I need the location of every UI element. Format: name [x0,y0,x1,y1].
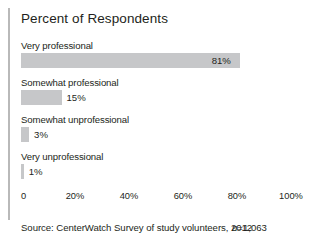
x-axis-tick-label: 60% [174,190,193,202]
bar-track: 1% [21,164,301,179]
plot-area: Very professional81%Somewhat professiona… [0,40,320,195]
bar-track: 3% [21,127,301,142]
bar-value-label: 15% [67,92,86,103]
bar[interactable] [21,90,62,105]
x-axis-tick-label: 20% [66,190,85,202]
x-axis: 020%40%60%80%100% [0,190,320,206]
source-note: Source: CenterWatch Survey of study volu… [21,222,252,234]
sample-size-value: =1,063 [237,222,267,233]
x-axis-tick-label: 0 [21,190,26,202]
bar-value-label: 81% [212,55,231,66]
category-label: Somewhat professional [21,77,119,88]
chart-category-row: Very unprofessional1% [21,151,301,185]
bar[interactable] [21,127,29,142]
bar[interactable] [21,164,24,179]
chart-title: Percent of Respondents [21,11,168,27]
bar-value-label: 1% [29,166,43,177]
bar-track: 81% [21,53,301,68]
x-axis-tick-label: 40% [120,190,139,202]
chart-category-row: Somewhat unprofessional3% [21,114,301,148]
category-label: Very unprofessional [21,151,103,162]
chart-category-row: Very professional81% [21,40,301,74]
category-label: Very professional [21,40,93,51]
x-axis-tick-label: 80% [228,190,247,202]
bar-track: 15% [21,90,301,105]
category-label: Somewhat unprofessional [21,114,129,125]
chart-category-row: Somewhat professional15% [21,77,301,111]
chart-figure: Percent of Respondents Very professional… [0,0,320,244]
x-axis-tick-label: 100% [279,190,303,202]
bar-value-label: 3% [34,129,48,140]
sample-size-note: n=1,063 [232,222,267,234]
bar[interactable] [21,53,240,68]
